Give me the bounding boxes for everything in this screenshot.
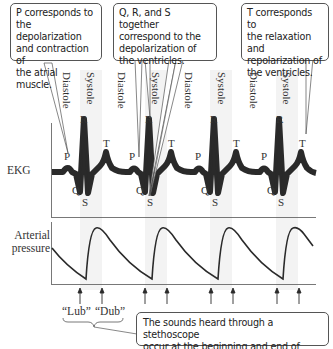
lub-sound-label: “Lub” bbox=[62, 305, 91, 318]
wave-q: Q bbox=[201, 184, 209, 196]
wave-t: T bbox=[168, 137, 175, 149]
phase-label: Diastole bbox=[116, 72, 128, 109]
ekg-label: EKG bbox=[7, 164, 31, 177]
wave-s: S bbox=[278, 196, 284, 208]
arterial-pressure-label: Arterial pressure bbox=[6, 229, 50, 255]
wave-p: P bbox=[261, 150, 267, 162]
wave-t: T bbox=[103, 137, 110, 149]
phase-label: Diastole bbox=[61, 72, 73, 109]
wave-q: Q bbox=[136, 184, 144, 196]
wave-s: S bbox=[212, 196, 218, 208]
dub-sound-label: “Dub” bbox=[95, 305, 125, 318]
phase-label: Systole bbox=[150, 72, 162, 105]
wave-q: Q bbox=[72, 184, 80, 196]
wave-s: S bbox=[147, 196, 153, 208]
wave-t: T bbox=[233, 137, 240, 149]
wave-r: R bbox=[276, 113, 283, 125]
wave-p: P bbox=[195, 150, 201, 162]
phase-label: Diastole bbox=[248, 72, 260, 109]
wave-t: T bbox=[299, 137, 306, 149]
wave-q: Q bbox=[267, 184, 275, 196]
phase-label: Systole bbox=[216, 72, 228, 105]
phase-label: Systole bbox=[85, 72, 97, 105]
wave-r: R bbox=[145, 113, 152, 125]
phase-labels: Diastole Systole Diastole Systole Diasto… bbox=[0, 0, 333, 349]
phase-label: Diastole bbox=[183, 72, 195, 109]
wave-p: P bbox=[129, 150, 135, 162]
cardiac-cycle-diagram: P corresponds to the depolarization and … bbox=[0, 0, 333, 349]
wave-s: S bbox=[82, 196, 88, 208]
phase-label: Systole bbox=[281, 72, 293, 105]
wave-p: P bbox=[64, 150, 70, 162]
wave-r: R bbox=[80, 113, 87, 125]
wave-r: R bbox=[210, 113, 217, 125]
